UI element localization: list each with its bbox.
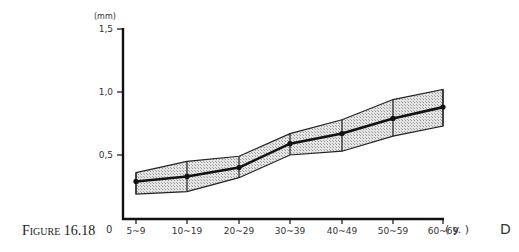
svg-text:1,5: 1,5	[99, 24, 113, 34]
svg-text:0,5: 0,5	[99, 150, 113, 160]
svg-text:(mm): (mm)	[94, 12, 116, 21]
panel-label: D	[500, 221, 511, 237]
chart-plot: 0,51,01,5(mm)5~910~1920~2930~3940~4950~5…	[0, 0, 519, 252]
origin-label: 0	[106, 224, 112, 235]
figure-caption: Figure 16.18	[22, 223, 95, 239]
svg-text:30~39: 30~39	[275, 226, 306, 236]
svg-text:1,0: 1,0	[99, 87, 114, 97]
svg-text:20~29: 20~29	[224, 226, 255, 236]
x-unit-label: ( y. )	[445, 223, 469, 236]
svg-text:50~59: 50~59	[378, 226, 409, 236]
svg-text:5~9: 5~9	[127, 226, 146, 236]
svg-text:40~49: 40~49	[327, 226, 358, 236]
svg-text:10~19: 10~19	[172, 226, 203, 236]
